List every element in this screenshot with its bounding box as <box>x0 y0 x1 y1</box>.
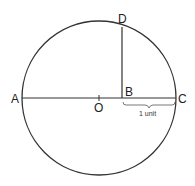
unit-brace <box>123 102 175 108</box>
circle-diagram: A O B C D 1 unit <box>0 0 195 186</box>
unit-annotation: 1 unit <box>139 110 156 117</box>
label-b: B <box>125 85 133 99</box>
label-c: C <box>178 92 187 106</box>
label-a: A <box>11 92 19 106</box>
label-o: O <box>94 101 103 115</box>
label-d: D <box>118 12 127 26</box>
